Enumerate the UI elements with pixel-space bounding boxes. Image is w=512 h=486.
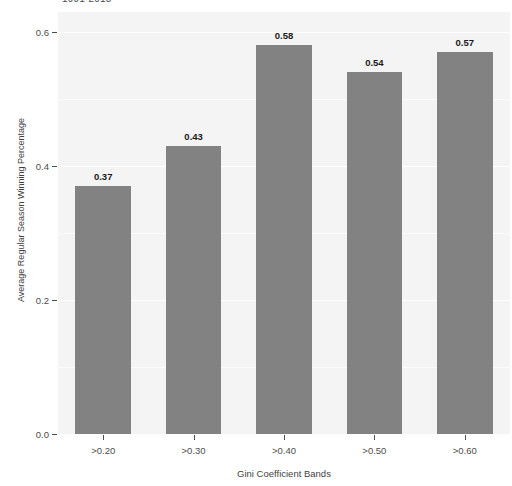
bar[interactable] [166, 146, 222, 434]
bar-value-label: 0.37 [94, 171, 113, 182]
x-tick-label: >0.20 [91, 445, 115, 456]
bar[interactable] [347, 72, 403, 434]
x-tick-mark [103, 435, 104, 440]
y-tick-mark [52, 166, 57, 167]
chart-title: 1991-2018 [62, 0, 112, 4]
x-tick-mark [465, 435, 466, 440]
bar-value-label: 0.58 [275, 30, 294, 41]
plot-panel: 0.370.430.580.540.57 [58, 12, 510, 434]
bar-value-label: 0.54 [365, 57, 384, 68]
x-tick-label: >0.40 [272, 445, 296, 456]
plot-area: 0.370.430.580.540.57 [58, 12, 510, 434]
y-tick-mark [52, 434, 57, 435]
y-tick-label: 0.0 [36, 429, 49, 440]
x-tick-mark [284, 435, 285, 440]
x-tick-label: >0.60 [453, 445, 477, 456]
bar[interactable] [75, 186, 131, 434]
bar-value-label: 0.43 [184, 131, 203, 142]
y-axis-title: Average Regular Season Winning Percentag… [14, 0, 28, 420]
bar-value-label: 0.57 [456, 37, 475, 48]
x-axis-title: Gini Coefficient Bands [58, 468, 510, 479]
x-tick-mark [194, 435, 195, 440]
y-tick-label: 0.6 [36, 27, 49, 38]
y-tick-label: 0.2 [36, 295, 49, 306]
bar[interactable] [256, 45, 312, 434]
bar[interactable] [437, 52, 493, 434]
y-tick-label: 0.4 [36, 161, 49, 172]
x-tick-mark [374, 435, 375, 440]
y-tick-mark [52, 32, 57, 33]
x-tick-label: >0.30 [182, 445, 206, 456]
x-tick-label: >0.50 [362, 445, 386, 456]
y-tick-mark [52, 300, 57, 301]
bar-chart: 1991-2018 Average Regular Season Winning… [0, 0, 512, 486]
